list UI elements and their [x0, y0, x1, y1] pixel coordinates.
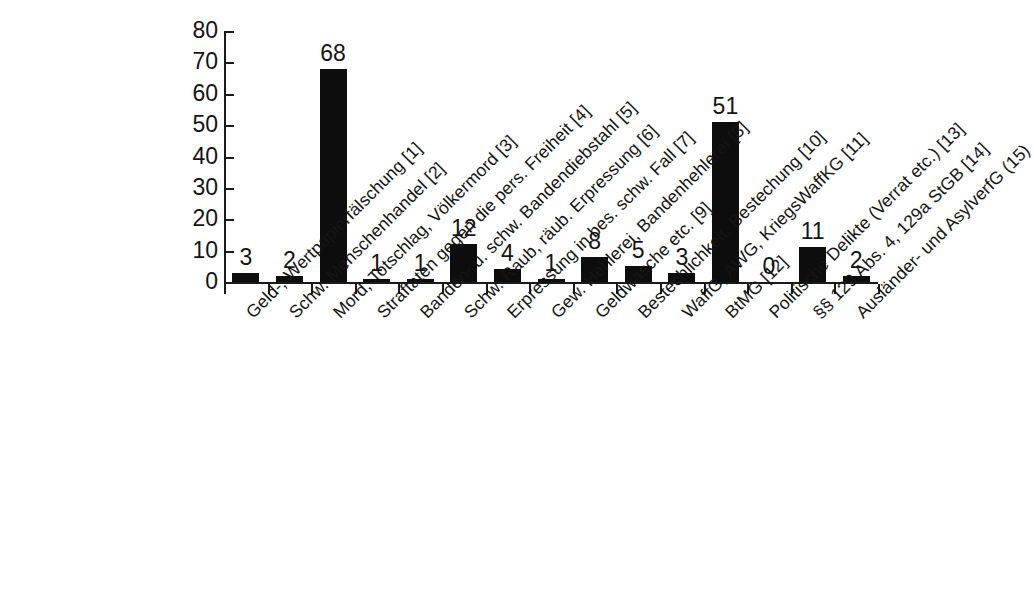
y-tick-label: 20: [158, 205, 218, 231]
bar: [232, 273, 259, 282]
y-tick-label: 40: [158, 143, 218, 169]
y-tick-mark: [224, 31, 234, 33]
x-tick-mark: [224, 284, 226, 294]
y-tick-label: 0: [158, 268, 218, 294]
y-tick-mark: [224, 94, 234, 96]
y-tick-label: 70: [158, 48, 218, 74]
y-tick-label: 50: [158, 111, 218, 137]
x-axis-category-label: Ausländer- und AsylverfG (15): [852, 140, 1034, 322]
y-tick-label: 30: [158, 174, 218, 200]
bar-value-label: 68: [303, 40, 363, 66]
y-tick-label: 10: [158, 237, 218, 263]
y-tick-mark: [224, 125, 234, 127]
y-tick-mark: [224, 188, 234, 190]
bar-value-label: 51: [695, 93, 755, 119]
y-tick-mark: [224, 219, 234, 221]
y-tick-mark: [224, 157, 234, 159]
y-tick-label: 60: [158, 80, 218, 106]
y-tick-label: 80: [158, 17, 218, 43]
y-tick-mark: [224, 62, 234, 64]
